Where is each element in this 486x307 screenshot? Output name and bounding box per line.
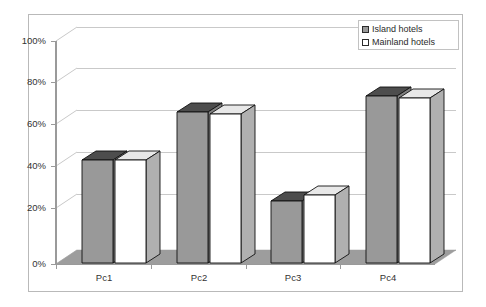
y-tick-label-80: 80% — [2, 76, 46, 87]
y-tick-label-20: 20% — [2, 202, 46, 213]
bar-pc1-mainland — [115, 151, 160, 263]
legend-label-island: Island hotels — [372, 24, 423, 35]
bar-pc2-mainland — [210, 105, 255, 263]
y-tick-label-0: 0% — [2, 258, 46, 269]
bar-side — [335, 186, 349, 263]
y-tick-label-60: 60% — [2, 118, 46, 129]
bar-front — [115, 160, 146, 263]
x-tick-label-pc2: Pc2 — [164, 272, 234, 283]
chart-container: 100% 80% 60% 40% 20% 0% Pc1 Pc2 Pc3 Pc4 … — [0, 0, 486, 307]
bar-front — [177, 112, 208, 263]
chart-legend: Island hotels Mainland hotels — [358, 20, 459, 50]
bar-pc3-mainland — [304, 186, 349, 263]
x-tick-label-pc4: Pc4 — [353, 272, 423, 283]
y-tick-label-40: 40% — [2, 160, 46, 171]
bar-front — [399, 98, 430, 263]
legend-item-mainland: Mainland hotels — [362, 36, 455, 49]
bar-front — [366, 96, 397, 263]
bar-side — [241, 105, 255, 263]
legend-swatch-mainland-icon — [362, 39, 369, 46]
bar-front — [82, 160, 113, 263]
y-axis-ticks — [51, 41, 56, 264]
bar-front — [271, 201, 302, 263]
side-wall-connectors — [56, 27, 77, 264]
x-tick-label-pc1: Pc1 — [69, 272, 139, 283]
bar-front — [304, 195, 335, 263]
bar-pc4-mainland — [399, 89, 444, 263]
legend-swatch-island-icon — [362, 26, 369, 33]
x-tick-label-pc3: Pc3 — [258, 272, 328, 283]
bar-side — [430, 89, 444, 263]
legend-item-island: Island hotels — [362, 23, 455, 36]
legend-label-mainland: Mainland hotels — [372, 37, 435, 48]
y-tick-label-100: 100% — [2, 35, 46, 46]
x-axis-ticks — [56, 264, 435, 269]
bar-front — [210, 114, 241, 263]
bar-side — [146, 151, 160, 263]
